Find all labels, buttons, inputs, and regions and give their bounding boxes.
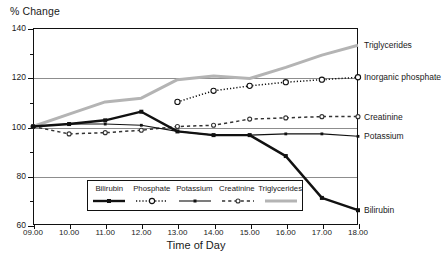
series-line-phosphate xyxy=(177,77,358,102)
data-point-creatinine xyxy=(248,117,252,121)
data-point-phosphate xyxy=(247,83,252,88)
data-point-creatinine xyxy=(284,116,288,120)
data-point-phosphate xyxy=(319,77,324,82)
data-point-bilirubin xyxy=(67,122,71,126)
data-point-creatinine xyxy=(67,132,71,136)
legend-key-bilirubin xyxy=(88,196,131,206)
data-point-bilirubin xyxy=(31,125,35,129)
legend-label-triglycerides: Triglycerides xyxy=(258,184,302,193)
series-layer xyxy=(0,0,447,260)
data-point-bilirubin xyxy=(356,208,360,212)
series-line-triglycerides xyxy=(33,45,358,126)
legend-label-creatinine: Creatinine xyxy=(216,184,259,193)
data-point-phosphate xyxy=(211,88,216,93)
data-point-phosphate xyxy=(355,75,360,80)
data-point-creatinine xyxy=(356,115,360,119)
data-point-creatinine xyxy=(175,125,179,129)
chart-legend: BilirubinPhosphatePotassiumCreatinineTri… xyxy=(87,180,303,211)
legend-label-potassium: Potassium xyxy=(173,184,216,193)
data-point-potassium xyxy=(104,123,107,126)
data-point-bilirubin xyxy=(175,129,179,133)
legend-label-phosphate: Phosphate xyxy=(131,184,174,193)
data-point-potassium xyxy=(140,124,143,127)
x-axis-title: Time of Day xyxy=(0,239,392,251)
data-point-bilirubin xyxy=(320,196,324,200)
data-point-phosphate xyxy=(175,99,180,104)
data-point-potassium xyxy=(320,132,323,135)
data-point-bilirubin xyxy=(212,133,216,137)
data-point-potassium xyxy=(357,135,360,138)
legend-key-potassium xyxy=(174,196,217,206)
data-point-bilirubin xyxy=(284,154,288,158)
data-point-creatinine xyxy=(139,128,143,132)
data-point-bilirubin xyxy=(248,133,252,137)
legend-label-bilirubin: Bilirubin xyxy=(88,184,131,193)
data-point-phosphate xyxy=(283,80,288,85)
data-point-creatinine xyxy=(103,131,107,135)
series-line-creatinine xyxy=(33,117,358,134)
legend-labels: BilirubinPhosphatePotassiumCreatinineTri… xyxy=(88,181,302,193)
data-point-creatinine xyxy=(320,115,324,119)
legend-key-triglycerides xyxy=(259,196,302,206)
legend-key-creatinine xyxy=(216,196,259,206)
legend-keys xyxy=(88,193,302,206)
data-point-bilirubin xyxy=(103,118,107,122)
data-point-potassium xyxy=(284,132,287,135)
chart-container: % Change 6080100120140 09.0010.0011.0012… xyxy=(0,0,447,260)
legend-key-phosphate xyxy=(131,196,174,206)
data-point-creatinine xyxy=(212,123,216,127)
data-point-bilirubin xyxy=(139,110,143,114)
